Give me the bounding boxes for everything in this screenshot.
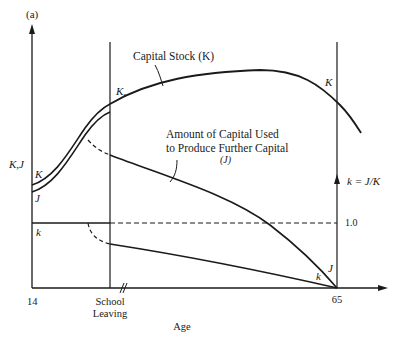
capital-diagram: (a) K,J Capital Stock (K) Ks K Amount of…: [0, 0, 395, 343]
x-tick-school-2: Leaving: [93, 308, 128, 319]
x-tick-14: 14: [27, 296, 38, 307]
x-axis-arrow-icon: [378, 285, 388, 291]
curve-K-school: [32, 104, 110, 185]
j-right-label: J: [328, 262, 334, 274]
panel-label: (a): [26, 8, 39, 21]
j-left-label: J: [35, 192, 41, 204]
right-axis-arrow-icon: [334, 174, 340, 184]
capital-used-label-3: (J): [220, 154, 232, 166]
x-tick-school-1: School: [95, 296, 124, 307]
capital-stock-label: Capital Stock (K): [133, 50, 214, 63]
curve-J-work: [110, 155, 337, 288]
k-right-label: K: [324, 76, 333, 88]
y-axis-arrow-icon: [29, 24, 35, 34]
k-left-label: K: [34, 168, 43, 180]
x-axis-label: Age: [173, 321, 191, 332]
curve-k-work: [110, 244, 337, 288]
k-small-left-label: k: [36, 226, 42, 238]
right-axis-tick: 1.0: [345, 217, 358, 228]
curve-J-dashed-drop: [88, 140, 110, 155]
curve-K-work: [110, 70, 361, 133]
capital-used-label-1: Amount of Capital Used: [166, 128, 279, 141]
x-tick-65: 65: [332, 294, 343, 305]
y-axis-label: K,J: [8, 158, 25, 170]
ks-label: Ks: [115, 85, 126, 99]
right-axis-label: k = J/K: [347, 175, 381, 187]
k-small-right-label: k: [316, 270, 322, 282]
curve-k-dashed-drop: [88, 223, 110, 244]
